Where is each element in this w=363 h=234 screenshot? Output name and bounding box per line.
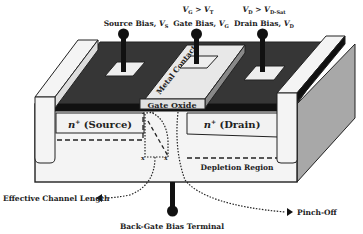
gate-ball [191, 29, 202, 40]
gate-condition-label: VG > VT [182, 5, 213, 15]
mosfet-diagram: Gate Oxide Metal Contact x x n+ (Source)… [0, 0, 363, 234]
left-pillar-front [35, 97, 55, 163]
channel-arrow-left: x [141, 154, 145, 161]
pinch-off-label: Pinch-Off [297, 208, 338, 217]
gate-bias-label: Gate Bias, VG [173, 19, 229, 29]
drain-ball [257, 29, 268, 40]
source-bias-label: Source Bias, VS [104, 19, 169, 29]
drain-condition-label: VD > VD-Sat [242, 5, 286, 15]
back-gate-ball [167, 206, 178, 217]
drain-bias-label: Drain Bias, VD [234, 19, 295, 29]
source-ball [118, 29, 129, 40]
gate-oxide-label: Gate Oxide [147, 100, 196, 110]
effective-channel-length-label: Effective Channel Length [3, 194, 110, 203]
diagram-svg: Gate Oxide Metal Contact x x n+ (Source)… [0, 0, 363, 234]
drain-pin [260, 34, 265, 72]
pinch-off-arrowhead [287, 208, 293, 216]
channel-arrow-right: x [164, 154, 168, 161]
source-pin [121, 34, 126, 72]
depletion-region-label: Depletion Region [200, 163, 274, 172]
back-gate-label: Back-Gate Bias Terminal [120, 222, 224, 231]
right-pillar-front [277, 93, 297, 163]
